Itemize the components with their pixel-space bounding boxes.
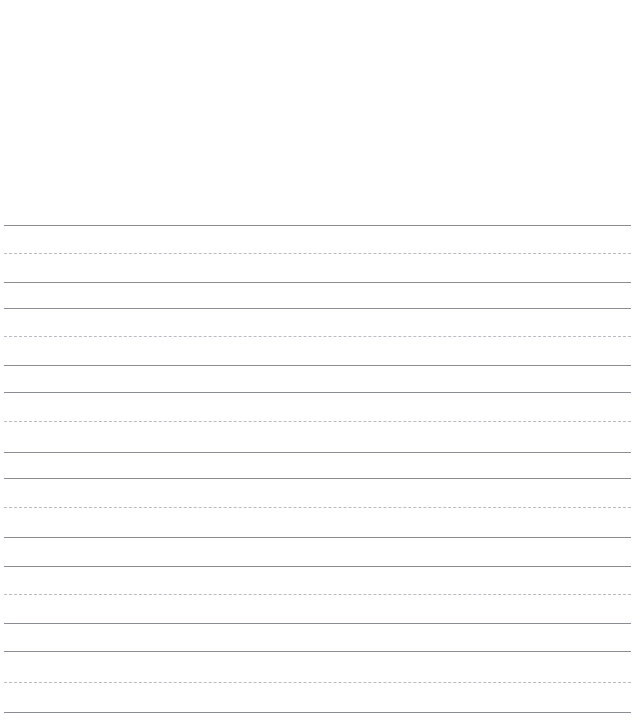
rule-line-solid-group-top (4, 308, 631, 309)
rule-line-solid-group-baseline (4, 712, 631, 713)
rule-line-solid-group-top (4, 225, 631, 226)
rule-line-solid-group-top (4, 566, 631, 567)
rule-line-solid-group-baseline (4, 282, 631, 283)
rule-line-dashed-group-midline (4, 594, 631, 595)
rule-line-solid-group-baseline (4, 537, 631, 538)
rule-line-dashed-group-midline (4, 336, 631, 337)
rule-line-solid-group-baseline (4, 365, 631, 366)
rule-line-solid-group-top (4, 651, 631, 652)
rule-line-dashed-group-midline (4, 253, 631, 254)
rule-line-solid-group-baseline (4, 623, 631, 624)
rule-line-dashed-group-midline (4, 421, 631, 422)
practice-paper-page (0, 0, 639, 724)
ruling-lines-area (0, 0, 639, 724)
rule-line-solid-group-baseline (4, 452, 631, 453)
rule-line-dashed-group-midline (4, 507, 631, 508)
rule-line-solid-group-top (4, 392, 631, 393)
rule-line-solid-group-top (4, 478, 631, 479)
rule-line-dashed-group-midline (4, 682, 631, 683)
